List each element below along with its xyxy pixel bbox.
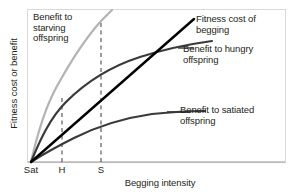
y-axis-label: Fitness cost or benefit bbox=[8, 19, 19, 149]
curve-benefit-satiated bbox=[31, 111, 205, 162]
figure-benefit-cost-begging: Fitness cost or benefit Begging intensit… bbox=[0, 0, 294, 192]
annotation-benefit-starving: Benefit to starving offspring bbox=[33, 12, 72, 44]
x-tick-label-s: S bbox=[89, 164, 113, 175]
annotation-benefit-satiated: Benefit to satiated offspring bbox=[180, 105, 254, 126]
x-tick-label-h: H bbox=[50, 164, 74, 175]
annotation-benefit-hungry: Benefit to hungry offspring bbox=[183, 44, 253, 65]
annotation-fitness-cost: Fitness cost of begging bbox=[196, 14, 256, 35]
x-tick-label-sat: Sat bbox=[16, 164, 46, 175]
x-axis-label: Begging intensity bbox=[90, 177, 230, 188]
